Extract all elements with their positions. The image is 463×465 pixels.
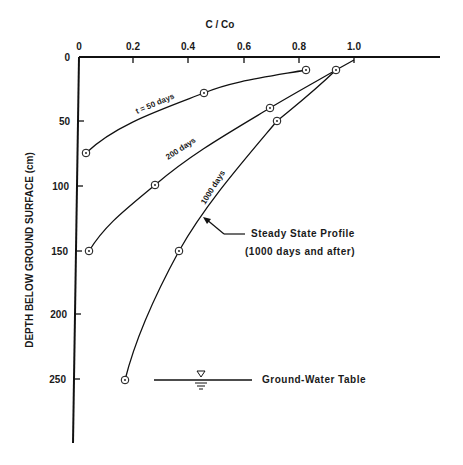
- curve-1000-days: [125, 70, 336, 380]
- x-tick-label: 0: [76, 41, 82, 52]
- water-table-icon: [197, 371, 205, 377]
- y-axis-title: DEPTH BELOW GROUND SURFACE (cm): [24, 152, 35, 348]
- x-tick-label: 0.4: [181, 41, 195, 52]
- depth-profile-chart: 0 0.2 0.4 0.6 0.8 1.0 C / Co 0 50 100 15…: [0, 0, 463, 465]
- steady-state-sublabel: (1000 days and after): [245, 246, 355, 257]
- curve-200-days: [89, 60, 354, 251]
- y-axis: [73, 57, 79, 443]
- data-markers: [82, 66, 340, 384]
- steady-state-label: Steady State Profile: [251, 228, 355, 239]
- y-tick-label: 200: [50, 309, 67, 320]
- x-tick-label: 1.0: [347, 41, 361, 52]
- x-tick-label: 0.6: [237, 41, 251, 52]
- y-tick-label: 100: [52, 181, 69, 192]
- x-tick-label: 0.8: [292, 41, 306, 52]
- arrow-icon: [203, 217, 211, 224]
- label-200-days: 200 days: [164, 135, 198, 161]
- y-tick-label: 150: [51, 246, 68, 257]
- x-tick-label: 0.2: [126, 41, 140, 52]
- ground-water-label: Ground-Water Table: [262, 374, 366, 385]
- x-axis-title: C / Co: [206, 19, 235, 30]
- y-tick-label: 50: [59, 116, 71, 127]
- y-tick-label: 0: [64, 52, 70, 63]
- curve-50-days: [86, 70, 306, 153]
- y-tick-label: 250: [49, 374, 66, 385]
